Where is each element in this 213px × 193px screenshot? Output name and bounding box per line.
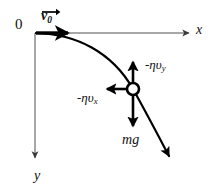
weight-mass-symbol: m — [122, 132, 132, 147]
trajectory-curve — [36, 33, 169, 156]
drag-y-subscript: y — [162, 63, 166, 73]
diagram-vector-layer — [0, 0, 213, 193]
initial-velocity-label: v0 — [41, 9, 52, 25]
origin-label: 0 — [15, 17, 23, 32]
x-axis-label: x — [196, 23, 202, 37]
initial-velocity-subscript: 0 — [47, 15, 52, 25]
physics-diagram-canvas: 0 x y v0 -ηυy -ηυx mg — [0, 0, 213, 193]
projectile-ball — [127, 83, 139, 95]
weight-force-label: mg — [122, 133, 139, 147]
weight-gravity-symbol: g — [132, 132, 139, 147]
drag-x-subscript: x — [94, 96, 98, 106]
y-axis-label: y — [34, 169, 40, 183]
drag-force-x-label: -ηυx — [77, 91, 98, 106]
initial-velocity-symbol: v — [41, 9, 47, 23]
drag-force-y-label: -ηυy — [145, 58, 166, 73]
